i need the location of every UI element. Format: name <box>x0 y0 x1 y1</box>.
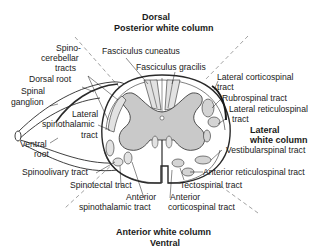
label-lateral-corticospinal-2: tract <box>217 83 234 92</box>
title-dorsal: Dorsal <box>142 12 170 22</box>
label-spinal-ganglion-2: ganglion <box>11 98 44 107</box>
label-lateral-reticulospinal-2: tract <box>232 115 249 124</box>
label-spinocerebellar-3: tracts <box>55 64 76 73</box>
label-ventral-root-1: Ventral <box>20 140 47 149</box>
label-fasciculus-gracilis: Fasciculus gracilis <box>136 63 206 72</box>
title-lateral: Lateral <box>250 125 280 135</box>
title-ventral: Ventral <box>150 238 180 248</box>
label-dorsal-root: Dorsal root <box>29 75 71 84</box>
title-posterior-white-column: Posterior white column <box>114 23 214 33</box>
label-anterior-corticospinal-1: Anterior <box>170 193 200 202</box>
label-anterior-spinothalamic-2: spinothalamic tract <box>79 203 151 212</box>
label-spinal-ganglion-1: Spinal <box>21 87 45 96</box>
title-anterior-white-column: Anterior white column <box>116 227 211 237</box>
label-ventral-root-2: root <box>34 150 49 159</box>
label-fasciculus-cuneatus: Fasciculus cuneatus <box>102 47 180 56</box>
label-spinotectal-tract: Spinotectal tract <box>70 181 132 190</box>
label-anterior-corticospinal-2: corticospinal tract <box>168 203 235 212</box>
label-lateral-spinothalamic-3: tract <box>81 131 98 140</box>
label-rubrospinal-tract: Rubrospinal tract <box>222 94 287 103</box>
central-canal <box>160 116 164 120</box>
label-vestibulospinal-tract: Vestibularspinal tract <box>226 146 305 155</box>
label-anterior-spinothalamic-1: Anterior <box>126 193 156 202</box>
label-anterior-reticulospinal-tract: Anterior reticulospinal tract <box>203 168 305 177</box>
label-lateral-spinothalamic-1: Lateral <box>72 110 98 119</box>
title-lateral-white-column: white column <box>250 135 308 145</box>
label-lateral-corticospinal-1: Lateral corticospinal <box>217 73 293 82</box>
label-spinocerebellar-1: Spino- <box>56 44 81 53</box>
label-tectospinal-tract: Tectospinal tract <box>180 181 242 190</box>
label-lateral-spinothalamic-2: spinothalamic <box>42 120 95 129</box>
label-lateral-reticulospinal-1: Lateral reticulospinal <box>229 105 308 114</box>
label-spinocerebellar-2: cerebellar <box>41 54 79 63</box>
label-spinoolivary-tract: Spinoolivary tract <box>22 168 88 177</box>
